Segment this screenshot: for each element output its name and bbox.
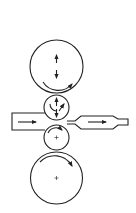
- metal-strip: [12, 113, 128, 130]
- lower-backup-roll: [31, 152, 83, 204]
- upper-work-roll: [44, 95, 69, 120]
- rolling-mill-diagram: [0, 0, 136, 213]
- lower-work-roll: [44, 125, 69, 150]
- upper-backup-roll: [30, 40, 83, 93]
- rotation-arrow-icon: [43, 82, 72, 90]
